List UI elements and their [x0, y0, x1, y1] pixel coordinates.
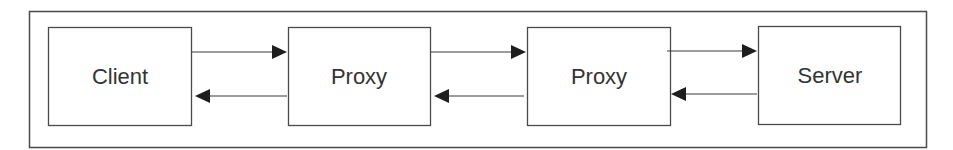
node-client: Client: [49, 28, 192, 126]
node-proxy-2-label: Proxy: [571, 64, 627, 89]
diagram-canvas: Client Proxy Proxy Server: [0, 0, 953, 150]
node-client-label: Client: [92, 64, 148, 89]
node-proxy-2: Proxy: [528, 28, 671, 126]
node-server-label: Server: [798, 63, 863, 88]
node-proxy-1-label: Proxy: [331, 64, 387, 89]
node-proxy-1: Proxy: [289, 28, 431, 126]
node-server: Server: [759, 27, 901, 125]
